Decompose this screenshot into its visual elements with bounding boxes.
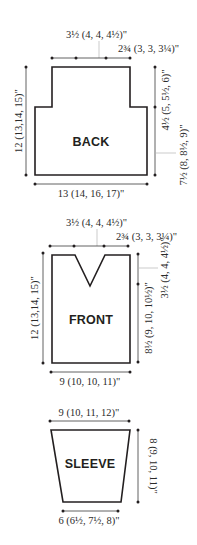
front-length-label: 12 (13,14, 15)": [29, 276, 41, 340]
back-width-label: 13 (14, 16, 17)": [58, 188, 124, 200]
back-armhole-label: 4½ (5, 5½, 6)": [160, 69, 172, 130]
sleeve-length-label: 8 (9, 10, 11)": [147, 438, 159, 494]
front-label: FRONT: [69, 313, 113, 327]
back-piece-group: 3½ (4, 4, 4½)" 2¾ (3, 3, 3¼)" BACK 12 (1…: [13, 29, 190, 200]
front-outline: [52, 255, 130, 363]
back-label: BACK: [73, 135, 110, 149]
sleeve-cuff-width-label: 6 (6½, 7½, 8)": [58, 515, 119, 527]
schematic-diagram: 3½ (4, 4, 4½)" 2¾ (3, 3, 3¼)" BACK 12 (1…: [0, 0, 197, 545]
back-length-label: 12 (13,14, 15)": [13, 89, 25, 153]
sleeve-top-width-label: 9 (10, 11, 12)": [59, 407, 120, 419]
front-lower-length-label: 8½ (9, 10, 10½)": [143, 282, 155, 354]
sleeve-piece-group: 9 (10, 11, 12)" SLEEVE 8 (9, 10, 11)" 6 …: [49, 407, 160, 527]
front-piece-group: 3½ (4, 4, 4½)" 2¾ (3, 3, 3¼)" FRONT 12 (…: [29, 217, 177, 388]
front-width-label: 9 (10, 10, 11)": [60, 376, 121, 388]
back-shoulder-width-label: 2¾ (3, 3, 3¼)": [118, 43, 179, 55]
back-neck-width-label: 3½ (4, 4, 4½)": [66, 29, 127, 41]
sleeve-label: SLEEVE: [65, 457, 116, 471]
front-neck-depth-label: 3½ (4, 4, 4½)": [159, 237, 171, 298]
back-side-length-label: 7½ (8, 8½, 9)": [178, 124, 190, 185]
back-outline: [35, 67, 147, 175]
front-neck-width-label: 3½ (4, 4, 4½)": [66, 217, 127, 229]
